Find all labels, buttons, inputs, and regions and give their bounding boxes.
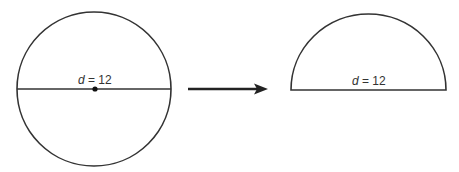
diagram-svg: d = 12 d = 12 <box>0 0 459 172</box>
circle-center-point <box>92 86 97 91</box>
diagram-canvas: d = 12 d = 12 <box>0 0 459 172</box>
semicircle-diameter-label: d = 12 <box>352 74 386 88</box>
semicircle-figure: d = 12 <box>291 14 446 90</box>
circle-figure: d = 12 <box>17 12 171 166</box>
transform-arrow-icon <box>188 84 268 95</box>
circle-diameter-label: d = 12 <box>78 73 112 87</box>
